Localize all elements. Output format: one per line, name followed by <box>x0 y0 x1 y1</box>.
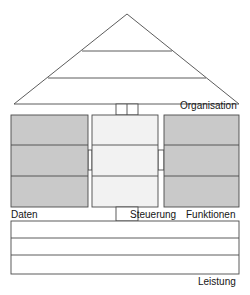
label-daten: Daten <box>11 209 38 220</box>
roof-center-connector-group <box>116 104 138 115</box>
aris-house-diagram <box>0 0 250 295</box>
label-steuerung: Steuerung <box>130 209 176 220</box>
roof-group <box>14 14 239 104</box>
column-daten-body <box>11 115 88 207</box>
column-steuerung <box>92 115 158 207</box>
label-leistung: Leistung <box>198 276 236 287</box>
foundation-group <box>11 221 239 274</box>
left-center-connector <box>88 150 92 170</box>
foundation-body <box>11 221 239 274</box>
label-funktionen: Funktionen <box>186 209 235 220</box>
diagram-canvas: Organisation Daten Steuerung Funktionen … <box>0 0 250 295</box>
label-organisation: Organisation <box>180 100 237 111</box>
column-funktionen-body <box>164 115 239 207</box>
column-funktionen <box>164 115 239 207</box>
column-steuerung-body <box>92 115 158 207</box>
column-daten <box>11 115 88 207</box>
center-right-connector <box>158 150 164 170</box>
roof-triangle <box>14 14 239 104</box>
